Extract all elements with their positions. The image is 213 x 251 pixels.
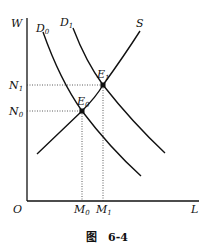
curve-label-d1: D1 bbox=[59, 16, 73, 30]
equilibrium-point-e1 bbox=[101, 83, 106, 88]
supply-curve-s bbox=[37, 31, 140, 154]
tick-label-n0: N0 bbox=[8, 105, 24, 119]
x-axis-label: L bbox=[190, 203, 198, 216]
y-axis-label: W bbox=[11, 17, 24, 30]
curve-label-s: S bbox=[136, 17, 144, 30]
curve-label-d0: D0 bbox=[35, 22, 50, 36]
demand-curve-d1 bbox=[73, 28, 165, 153]
point-label-e0: E0 bbox=[76, 95, 90, 109]
supply-demand-diagram: W O L D0 D1 S E1 E0 N1 N0 M0 M1 图 6-4 bbox=[0, 0, 213, 251]
origin-label: O bbox=[13, 203, 22, 216]
demand-curve-d0 bbox=[43, 32, 141, 176]
tick-label-m0: M0 bbox=[73, 203, 90, 217]
point-label-e1: E1 bbox=[96, 68, 110, 82]
figure-caption-prefix: 图 bbox=[86, 231, 97, 244]
tick-label-n1: N1 bbox=[8, 79, 23, 93]
figure-caption-number: 6-4 bbox=[108, 231, 128, 244]
equilibrium-point-e0 bbox=[80, 109, 85, 114]
tick-label-m1: M1 bbox=[95, 203, 112, 217]
